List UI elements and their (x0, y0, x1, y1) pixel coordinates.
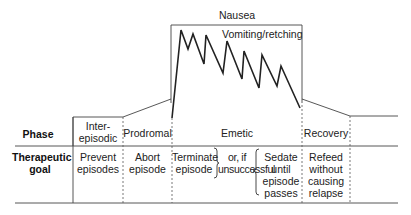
vomiting-retching-curve (172, 30, 300, 118)
goal-prevent-episodes: Prevent episodes (74, 151, 122, 175)
nausea-baseline-right (302, 99, 398, 116)
goal-abort-episode: Abort episode (123, 151, 172, 175)
nausea-label: Nausea (210, 9, 264, 21)
goal-sedate-until-passes: Sedate until episode passes (260, 151, 302, 199)
row-header-phase: Phase (20, 128, 56, 140)
row-header-therapeutic-goal: Therapeutic goal (12, 151, 68, 175)
phase-recovery: Recovery (302, 127, 350, 139)
goal-terminate-episode: Terminate episode (172, 151, 216, 175)
phase-inter-episodic: Inter- episodic (74, 120, 122, 144)
vomiting-retching-label: Vomiting/retching (222, 28, 300, 40)
goal-refeed-without-relapse: Refeed without causing relapse (302, 151, 350, 199)
goal-connector-or-if-unsuccessful: or, if unsuccessful (218, 151, 256, 175)
phase-prodromal: Prodromal (123, 127, 172, 139)
phase-emetic: Emetic (172, 127, 302, 139)
